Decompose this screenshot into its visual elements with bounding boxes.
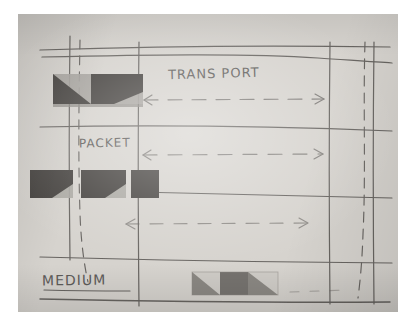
horizontal-rule-bottom	[40, 299, 390, 302]
transport-layer-blocks	[53, 74, 143, 107]
horizontal-rule-under-packet-blocks	[138, 192, 392, 198]
horizontal-rule-top-b	[42, 55, 392, 63]
medium-label: MEDIUM	[42, 272, 106, 289]
vertical-rule-mid-right	[329, 42, 330, 304]
screenshot-canvas: TRANS PORT PACKET MEDIUM	[0, 0, 415, 335]
horizontal-rule-top-a	[40, 46, 390, 50]
photographed-paper-sheet: TRANS PORT PACKET MEDIUM	[18, 14, 398, 312]
packet-span-arrow	[143, 149, 323, 160]
medium-trailing-dashes	[290, 290, 348, 292]
transport-span-arrow	[144, 94, 324, 105]
vertical-rule-left	[69, 36, 70, 260]
horizontal-rule-under-transport	[40, 126, 392, 131]
horizontal-rule-above-medium	[40, 257, 392, 263]
diagram-ink-layer	[18, 14, 398, 312]
vertical-rule-right	[373, 42, 374, 304]
horizontal-rule-medium-underline	[44, 290, 130, 291]
transport-label: TRANS PORT	[168, 65, 260, 83]
packet-label: PACKET	[79, 135, 131, 150]
packet-layer-blocks	[30, 170, 159, 198]
medium-layer-blocks	[192, 272, 278, 295]
unlabeled-span-arrow	[126, 218, 308, 229]
vertical-dashed-right	[358, 42, 365, 298]
